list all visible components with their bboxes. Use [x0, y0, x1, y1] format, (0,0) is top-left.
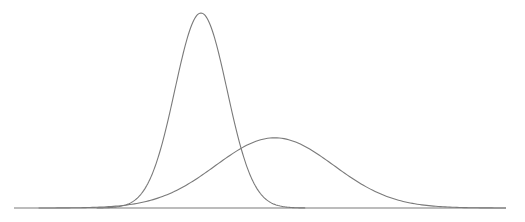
- wide-distribution-curve: [39, 138, 506, 208]
- narrow-distribution-curve: [97, 13, 306, 208]
- distribution-chart: [0, 0, 525, 222]
